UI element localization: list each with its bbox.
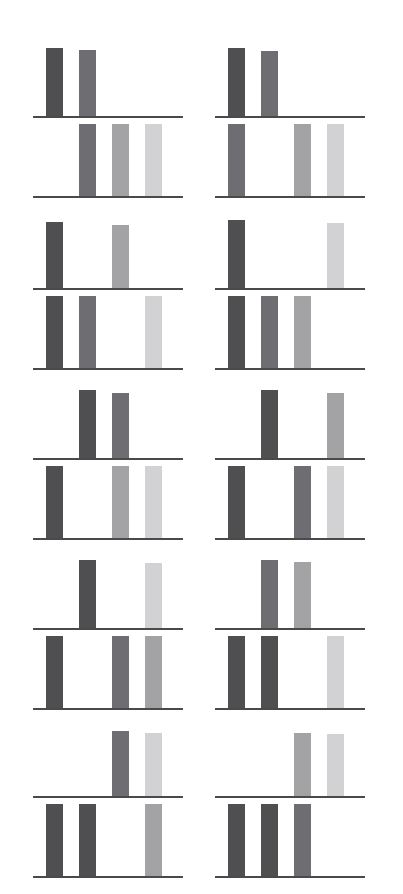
- bar: [261, 296, 278, 368]
- bar: [112, 731, 129, 796]
- panel-r4c2-upper-plot-area: [215, 556, 365, 628]
- bar: [145, 804, 162, 876]
- bar: [79, 390, 96, 458]
- panel-r5c2-upper-plot-area: [215, 724, 365, 796]
- bar: [294, 296, 311, 368]
- bar: [145, 563, 162, 628]
- bar: [261, 636, 278, 708]
- bar: [46, 48, 63, 116]
- bar: [145, 124, 162, 196]
- panel-r3c1-lower-subplot: [33, 466, 183, 538]
- bar: [228, 804, 245, 876]
- bar: [79, 560, 96, 628]
- bar: [261, 51, 278, 116]
- panel-r4c2: [215, 556, 365, 712]
- bar: [228, 636, 245, 708]
- panel-r1c1: [33, 44, 183, 200]
- panel-r4c2-lower-plot-area: [215, 636, 365, 708]
- bar: [145, 733, 162, 796]
- panel-r5c1: [33, 724, 183, 880]
- panel-r3c1-lower-plot-area: [33, 466, 183, 538]
- panel-r3c1-upper-plot-area: [33, 386, 183, 458]
- panel-r2c2-lower-plot-area: [215, 296, 365, 368]
- bar: [145, 636, 162, 708]
- panel-r2c1-lower-plot-area: [33, 296, 183, 368]
- panel-r2c1: [33, 216, 183, 372]
- bar: [79, 50, 96, 116]
- panel-r2c2-upper-subplot: [215, 216, 365, 288]
- panel-r1c1-upper-subplot: [33, 44, 183, 116]
- panel-r2c1-upper-plot-area: [33, 216, 183, 288]
- bar: [228, 220, 245, 288]
- bar: [79, 296, 96, 368]
- bar: [46, 466, 63, 538]
- panel-r4c1-lower-plot-area: [33, 636, 183, 708]
- bar: [228, 124, 245, 196]
- panel-r1c1-lower-plot-area: [33, 124, 183, 196]
- panel-r2c1-upper-axis-line: [33, 288, 183, 290]
- panel-r1c2: [215, 44, 365, 200]
- panel-r3c2-upper-plot-area: [215, 386, 365, 458]
- bar: [327, 636, 344, 708]
- panel-r1c1-upper-axis-line: [33, 116, 183, 118]
- bar: [228, 466, 245, 538]
- panel-r5c2: [215, 724, 365, 880]
- panel-r1c2-lower-subplot: [215, 124, 365, 196]
- panel-r4c1-lower-axis-line: [33, 708, 183, 710]
- figure-canvas: [0, 0, 403, 894]
- panel-r4c2-lower-subplot: [215, 636, 365, 708]
- bar: [79, 124, 96, 196]
- panel-r3c2-lower-plot-area: [215, 466, 365, 538]
- panel-r1c1-upper-plot-area: [33, 44, 183, 116]
- panel-r5c2-upper-subplot: [215, 724, 365, 796]
- panel-r1c2-upper-plot-area: [215, 44, 365, 116]
- bar: [261, 804, 278, 876]
- panel-r1c1-lower-subplot: [33, 124, 183, 196]
- panel-r4c1: [33, 556, 183, 712]
- bar: [112, 636, 129, 708]
- panel-r4c1-upper-subplot: [33, 556, 183, 628]
- bar: [327, 466, 344, 538]
- panel-r5c2-lower-plot-area: [215, 804, 365, 876]
- panel-r5c2-lower-axis-line: [215, 876, 365, 878]
- panel-r5c2-upper-axis-line: [215, 796, 365, 798]
- panel-r1c2-upper-subplot: [215, 44, 365, 116]
- panel-r1c2-lower-axis-line: [215, 196, 365, 198]
- panel-r5c1-upper-subplot: [33, 724, 183, 796]
- panel-r2c1-lower-subplot: [33, 296, 183, 368]
- panel-r3c2-lower-axis-line: [215, 538, 365, 540]
- bar: [112, 393, 129, 458]
- panel-r2c2-lower-axis-line: [215, 368, 365, 370]
- bar: [261, 390, 278, 458]
- bar: [327, 734, 344, 796]
- bar: [46, 222, 63, 288]
- bar: [46, 296, 63, 368]
- bar: [294, 562, 311, 628]
- panel-r3c1-lower-axis-line: [33, 538, 183, 540]
- bar: [79, 804, 96, 876]
- panel-r3c2: [215, 386, 365, 542]
- panel-r4c2-upper-subplot: [215, 556, 365, 628]
- bar: [228, 48, 245, 116]
- panel-r2c2: [215, 216, 365, 372]
- panel-r2c1-lower-axis-line: [33, 368, 183, 370]
- panel-r1c1-lower-axis-line: [33, 196, 183, 198]
- panel-r4c2-upper-axis-line: [215, 628, 365, 630]
- bar: [112, 466, 129, 538]
- panel-r3c1: [33, 386, 183, 542]
- panel-r5c1-lower-plot-area: [33, 804, 183, 876]
- bar: [46, 636, 63, 708]
- panel-r3c2-upper-subplot: [215, 386, 365, 458]
- panel-r4c1-upper-plot-area: [33, 556, 183, 628]
- panel-r2c2-upper-axis-line: [215, 288, 365, 290]
- panel-r4c1-lower-subplot: [33, 636, 183, 708]
- panel-r3c1-upper-subplot: [33, 386, 183, 458]
- panel-r3c1-upper-axis-line: [33, 458, 183, 460]
- bar: [46, 804, 63, 876]
- bar: [261, 560, 278, 628]
- panel-r2c2-upper-plot-area: [215, 216, 365, 288]
- bar: [294, 804, 311, 876]
- bar: [145, 466, 162, 538]
- bar: [327, 124, 344, 196]
- panel-r2c2-lower-subplot: [215, 296, 365, 368]
